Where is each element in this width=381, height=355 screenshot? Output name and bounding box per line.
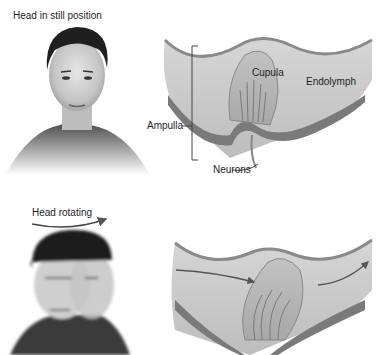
illustration-canvas — [0, 0, 381, 355]
rotation-arrow — [32, 219, 106, 227]
label-cupula: Cupula — [252, 67, 284, 79]
ampulla-diagram-still — [164, 39, 372, 171]
caption-rotating: Head rotating — [32, 207, 92, 219]
label-endolymph: Endolymph — [306, 76, 356, 88]
ampulla-diagram-rotating — [172, 240, 373, 355]
face-still — [5, 27, 150, 175]
label-neurons: Neurons — [213, 164, 251, 176]
face-rotating — [10, 230, 130, 355]
label-ampulla: Ampulla — [147, 120, 183, 132]
